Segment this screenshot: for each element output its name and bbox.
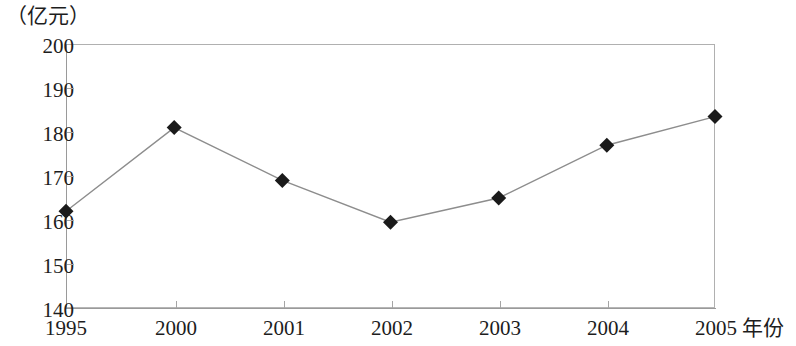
x-axis-line — [66, 308, 716, 309]
x-tick-mark-2001 — [284, 301, 285, 308]
x-tick-mark-2003 — [500, 301, 501, 308]
y-tick-label-180: 180 — [14, 124, 74, 145]
y-tick-mark-170 — [67, 176, 74, 177]
x-tick-mark-2002 — [392, 301, 393, 308]
x-tick-label-2001: 2001 — [239, 317, 329, 339]
x-tick-label-2004: 2004 — [563, 317, 653, 339]
y-tick-label-160: 160 — [14, 212, 74, 233]
x-tick-label-2000: 2000 — [131, 317, 221, 339]
x-axis-title: 年份 — [742, 317, 784, 339]
x-tick-label-2003: 2003 — [455, 317, 545, 339]
y-tick-label-150: 150 — [14, 256, 74, 277]
y-tick-mark-160 — [67, 220, 74, 221]
x-tick-mark-2000 — [176, 301, 177, 308]
y-tick-label-190: 190 — [14, 80, 74, 101]
x-tick-label-1995: 1995 — [21, 317, 111, 339]
y-tick-label-200: 200 — [14, 36, 74, 57]
y-tick-mark-190 — [67, 88, 74, 89]
y-axis-unit-label: （亿元） — [6, 4, 90, 28]
y-tick-mark-180 — [67, 132, 74, 133]
y-tick-label-170: 170 — [14, 168, 74, 189]
y-tick-mark-150 — [67, 264, 74, 265]
x-tick-mark-2004 — [608, 301, 609, 308]
plot-frame — [66, 44, 715, 308]
chart-page: （亿元） 200 190 180 170 160 150 140 1995 20… — [0, 0, 796, 346]
x-tick-label-2002: 2002 — [347, 317, 437, 339]
